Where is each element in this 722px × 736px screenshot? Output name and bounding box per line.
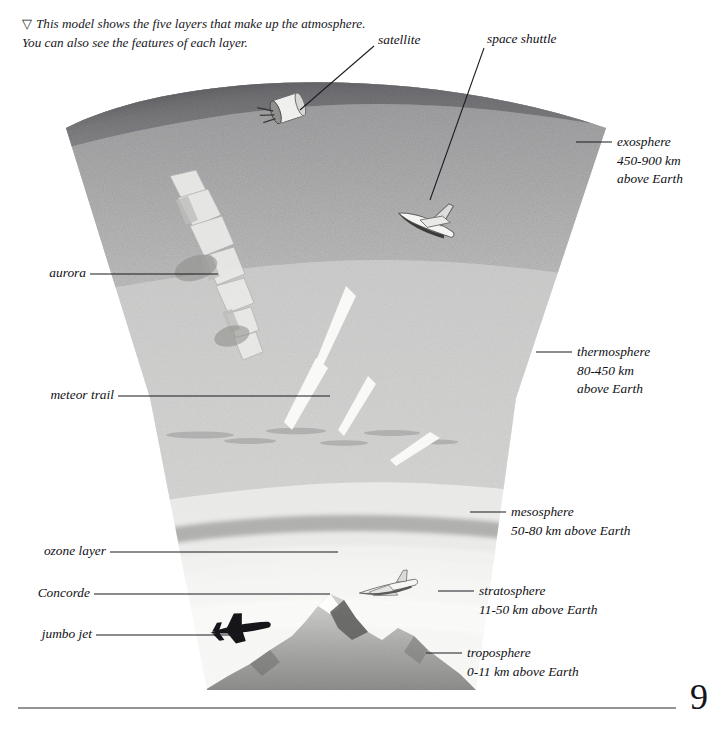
- label-satellite: satellite: [378, 31, 420, 50]
- label-stratosphere: stratosphere 11-50 km above Earth: [479, 582, 597, 619]
- label-space-shuttle: space shuttle: [487, 30, 557, 49]
- label-troposphere: troposphere 0-11 km above Earth: [467, 644, 579, 681]
- illustration-page: ▽This model shows the five layers that m…: [0, 0, 722, 736]
- label-meteor-trail: meteor trail: [0, 386, 114, 405]
- page-number: 9: [690, 676, 708, 718]
- label-exosphere: exosphere 450-900 km above Earth: [617, 133, 683, 189]
- label-concorde: Concorde: [0, 584, 90, 603]
- label-aurora: aurora: [0, 264, 86, 283]
- label-jumbo-jet: jumbo jet: [0, 625, 92, 644]
- label-mesosphere: mesosphere 50-80 km above Earth: [511, 503, 630, 540]
- label-thermosphere: thermosphere 80-450 km above Earth: [577, 343, 650, 399]
- label-ozone-layer: ozone layer: [0, 542, 106, 561]
